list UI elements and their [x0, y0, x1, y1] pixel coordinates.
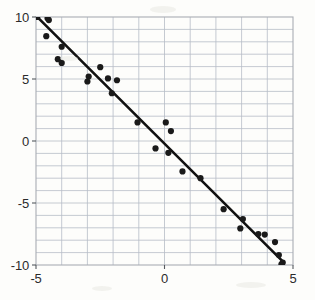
- scatter-point: [165, 150, 171, 156]
- y-axis-tick-label: 5: [0, 72, 29, 87]
- scan-artifact: [92, 286, 112, 291]
- scatter-point: [179, 168, 185, 174]
- plot-canvas: [0, 0, 315, 300]
- scatter-point: [43, 33, 49, 39]
- y-axis-tick-label: 10: [0, 10, 29, 25]
- scatter-point: [240, 216, 246, 222]
- scatter-point: [46, 17, 52, 23]
- x-axis-tick-label: -5: [30, 271, 41, 286]
- scatter-point: [109, 90, 115, 96]
- scatter-point: [255, 231, 261, 237]
- scatter-point: [262, 232, 268, 238]
- y-axis-tick-label: 0: [0, 134, 29, 149]
- scatter-point: [84, 78, 90, 84]
- scatter-point: [276, 252, 282, 258]
- y-axis-tick-label: -5: [0, 196, 29, 211]
- scatter-point: [59, 44, 65, 50]
- x-axis-tick-label: 5: [289, 271, 296, 286]
- scatter-point: [237, 225, 243, 231]
- scan-artifact: [150, 6, 176, 13]
- scan-artifact: [236, 282, 266, 288]
- scatter-point: [105, 75, 111, 81]
- scatter-point: [134, 119, 140, 125]
- scatter-point: [272, 239, 278, 245]
- scatter-point: [168, 128, 174, 134]
- scatter-point: [97, 64, 103, 70]
- scatter-point: [114, 77, 120, 83]
- x-axis-tick-label: 0: [161, 271, 168, 286]
- y-axis-tick-label: -10: [0, 258, 29, 273]
- scatter-point: [152, 145, 158, 151]
- scatter-plot-figure: 1050-5-10 -505: [0, 0, 315, 300]
- scan-artifact: [60, 56, 78, 61]
- scatter-point: [163, 119, 169, 125]
- scatter-point: [221, 206, 227, 212]
- scatter-point: [197, 175, 203, 181]
